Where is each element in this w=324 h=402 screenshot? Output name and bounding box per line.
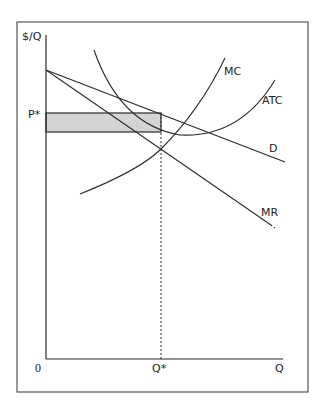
quantity-label: Q* [152, 362, 167, 375]
marginal-revenue-curve-tail [271, 225, 276, 229]
mr-label: MR [261, 206, 278, 219]
profit-region [46, 113, 161, 132]
y-axis-label: $/Q [22, 30, 42, 43]
price-label: P* [28, 108, 41, 121]
monopoly-diagram: $/Q P* 0 Q* Q MC ATC D MR [0, 0, 324, 402]
marginal-revenue-curve [46, 70, 271, 225]
x-axis-label: Q [275, 362, 284, 375]
atc-label: ATC [262, 94, 283, 107]
demand-label: D [269, 142, 277, 155]
origin-label: 0 [35, 361, 41, 375]
mc-label: MC [224, 65, 241, 78]
